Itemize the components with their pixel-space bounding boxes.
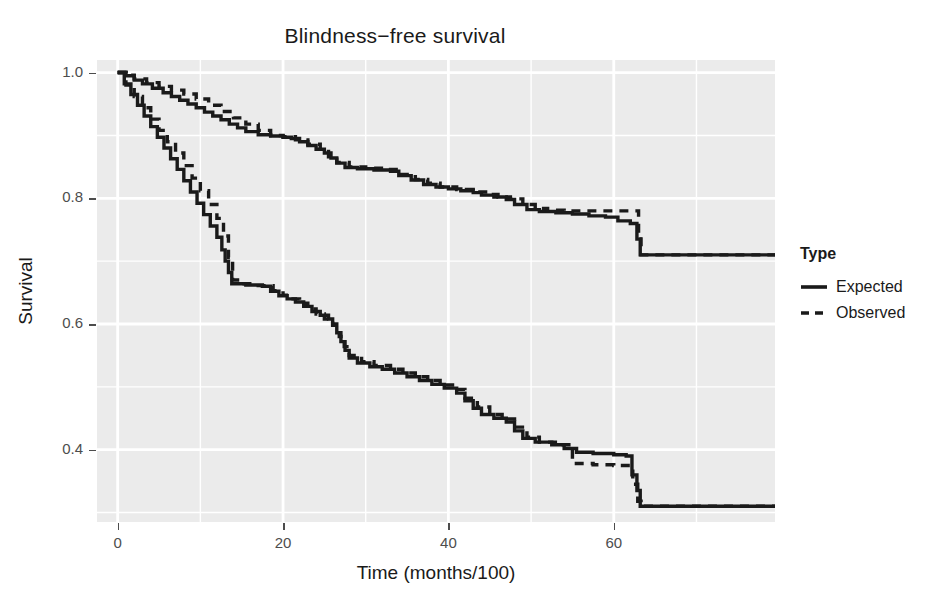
x-tick-mark — [118, 523, 120, 530]
x-tick-mark — [448, 523, 450, 530]
plot-panel — [97, 60, 775, 522]
chart-figure: Blindness−free survival Survival Time (m… — [0, 0, 930, 604]
legend-title: Type — [800, 245, 920, 263]
curve-lower-dashed — [118, 73, 775, 507]
x-tick-label: 20 — [253, 534, 313, 551]
chart-title: Blindness−free survival — [0, 24, 790, 48]
y-tick-label: 0.8 — [23, 188, 83, 205]
x-tick-label: 60 — [584, 534, 644, 551]
legend-label: Observed — [836, 304, 905, 322]
legend-entry-observed[interactable]: Observed — [800, 300, 920, 326]
curve-lower-solid — [118, 73, 775, 507]
x-axis-title: Time (months/100) — [97, 562, 775, 584]
y-tick-mark — [89, 198, 96, 200]
legend-entry-expected[interactable]: Expected — [800, 274, 920, 300]
legend-entries: ExpectedObserved — [800, 274, 920, 326]
y-tick-label: 1.0 — [23, 63, 83, 80]
y-tick-mark — [89, 73, 96, 75]
legend-label: Expected — [836, 278, 903, 296]
legend-key-solid-line-icon — [800, 277, 828, 297]
x-tick-mark — [614, 523, 616, 530]
legend-key-dashed-line-icon — [800, 303, 828, 323]
y-tick-mark — [89, 450, 96, 452]
x-tick-label: 40 — [418, 534, 478, 551]
x-tick-mark — [283, 523, 285, 530]
survival-curves-svg — [97, 60, 775, 522]
y-tick-label: 0.6 — [23, 314, 83, 331]
y-tick-label: 0.4 — [23, 440, 83, 457]
legend: Type ExpectedObserved — [800, 245, 920, 326]
y-tick-mark — [89, 324, 96, 326]
x-tick-label: 0 — [88, 534, 148, 551]
y-axis-title: Survival — [15, 221, 37, 361]
